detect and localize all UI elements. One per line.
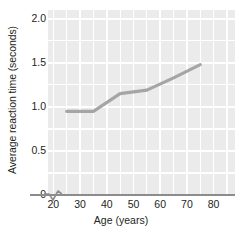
y-tick-label: 2.0 xyxy=(24,13,46,24)
x-axis-title-label: Age (years) xyxy=(94,214,148,226)
x-tick-label: 60 xyxy=(147,198,173,210)
x-tick-label: 20 xyxy=(40,198,66,210)
x-tick-label: 80 xyxy=(201,198,227,210)
x-tick-label: 40 xyxy=(94,198,120,210)
y-axis-title: Average reaction time (seconds) xyxy=(0,0,24,200)
reaction-time-line-chart: Average reaction time (seconds) 00.51.01… xyxy=(0,0,242,234)
y-axis-title-label: Average reaction time (seconds) xyxy=(6,26,18,174)
y-tick-label: 0.5 xyxy=(24,145,46,156)
x-tick-label: 70 xyxy=(174,198,200,210)
data-series-line xyxy=(48,10,235,195)
y-tick-label: 1.5 xyxy=(24,57,46,68)
plot-area xyxy=(48,10,235,195)
x-tick-label: 30 xyxy=(67,198,93,210)
x-axis-tick-labels: 20304050607080 xyxy=(0,198,242,212)
y-tick-label: 1.0 xyxy=(24,101,46,112)
series-polyline xyxy=(67,65,201,112)
x-tick-label: 50 xyxy=(120,198,146,210)
x-axis-title: Age (years) xyxy=(0,214,242,226)
